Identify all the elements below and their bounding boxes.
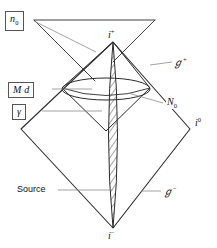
label-source: Source — [16, 184, 47, 194]
n0-leader-line — [34, 21, 96, 52]
label-i-zero: i0 — [194, 116, 202, 128]
penrose-diagram-figure: n0 M d γ Source i+ i− i0 ℊ+ ℊ− N0 — [0, 0, 217, 248]
n0-left-descending-line — [34, 20, 95, 81]
n0-right-descending-line — [113, 20, 155, 62]
label-gamma: γ — [12, 104, 26, 120]
outer-diamond — [21, 42, 190, 228]
label-N0: N0 — [166, 96, 178, 109]
label-i-minus: i− — [107, 229, 115, 241]
label-scri-plus: ℊ+ — [172, 54, 188, 69]
scri-plus-leader-line — [150, 62, 172, 65]
label-scri-minus: ℊ− — [162, 183, 178, 198]
label-i-plus: i+ — [107, 28, 115, 40]
label-md: M d — [8, 82, 34, 98]
inner-diamond — [62, 42, 150, 131]
hatched-spindle — [109, 42, 118, 228]
label-n0: n0 — [5, 11, 24, 31]
